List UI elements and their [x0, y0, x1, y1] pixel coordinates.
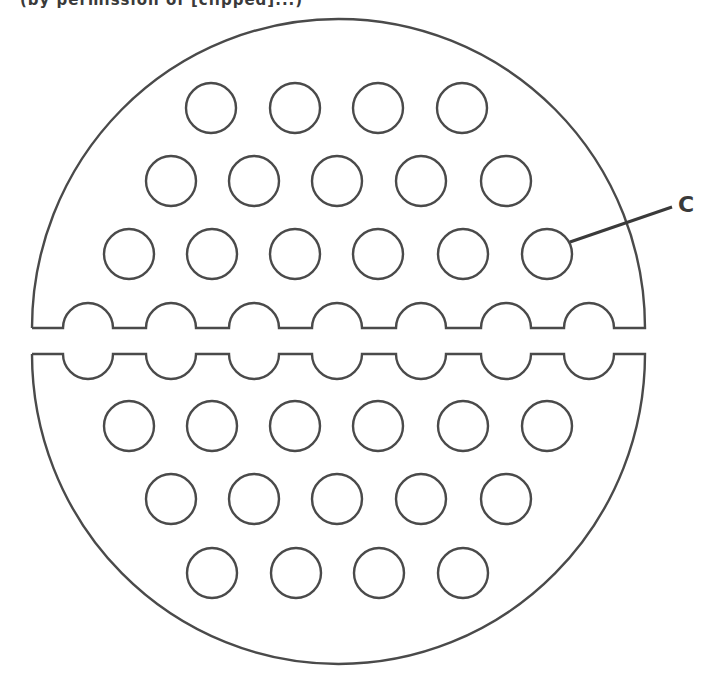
tube-hole [187, 548, 237, 598]
tube-hole [437, 83, 487, 133]
tube-hole [104, 229, 154, 279]
tube-hole [396, 156, 446, 206]
tube-hole [481, 156, 531, 206]
tube-hole [481, 474, 531, 524]
tube-hole [438, 401, 488, 451]
label-c: C [678, 192, 694, 217]
label-c-leader-line [570, 207, 672, 242]
tube-hole [353, 401, 403, 451]
tube-hole [270, 83, 320, 133]
tube-hole [522, 401, 572, 451]
top-half-plate [32, 19, 645, 328]
tube-hole [229, 156, 279, 206]
tube-hole [354, 548, 404, 598]
tube-holes [104, 83, 572, 598]
tube-hole [396, 474, 446, 524]
tube-hole [522, 229, 572, 279]
split-tube-sheet-diagram [0, 0, 702, 681]
tube-hole [187, 401, 237, 451]
tube-hole [146, 156, 196, 206]
tube-hole [353, 229, 403, 279]
top-half-outline [32, 19, 645, 328]
tube-hole [438, 229, 488, 279]
tube-hole [312, 474, 362, 524]
tube-hole [229, 474, 279, 524]
tube-hole [270, 401, 320, 451]
tube-hole [312, 156, 362, 206]
tube-hole [187, 229, 237, 279]
tube-hole [438, 548, 488, 598]
tube-hole [186, 83, 236, 133]
tube-hole [353, 83, 403, 133]
tube-hole [271, 548, 321, 598]
tube-hole [104, 401, 154, 451]
tube-hole [146, 474, 196, 524]
tube-hole [270, 229, 320, 279]
